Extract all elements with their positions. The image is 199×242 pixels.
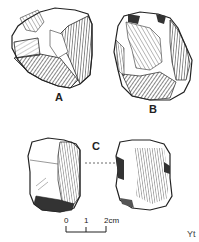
specimen-label-b: B (149, 104, 157, 115)
specimen-a-drawing (12, 8, 92, 88)
scale-tick-1: 1 (84, 217, 88, 225)
specimen-c-view-left (28, 138, 80, 212)
specimen-b-drawing (114, 12, 192, 100)
specimen-label-a: A (55, 92, 63, 103)
lithic-artifacts-figure (0, 0, 199, 242)
scale-bar (66, 226, 106, 232)
scale-tick-2cm: 2cm (104, 217, 119, 225)
specimen-c-view-right (116, 140, 172, 210)
edge-text: Yt (187, 230, 196, 239)
specimen-label-c: C (92, 141, 100, 152)
scale-tick-0: 0 (64, 217, 68, 225)
